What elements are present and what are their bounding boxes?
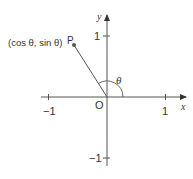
unit-circle-diagram: −1 1 1 −1 x y O θ (cos θ, sin θ) P (0, 0, 193, 179)
point-coordinate-label: (cos θ, sin θ) (8, 37, 62, 48)
y-axis-label: y (96, 11, 102, 22)
y-tick-label-minus-1: −1 (89, 152, 102, 164)
x-axis-label: x (180, 101, 186, 112)
radius-segment (74, 45, 107, 97)
point-name-label: P (67, 35, 74, 46)
angle-theta-label: θ (116, 74, 122, 86)
y-tick-label-1: 1 (94, 30, 100, 42)
origin-label: O (95, 99, 104, 111)
x-tick-label-minus-1: −1 (43, 105, 56, 117)
x-tick-label-1: 1 (162, 105, 168, 117)
